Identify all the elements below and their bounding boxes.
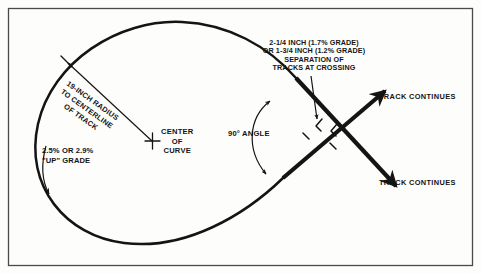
track-continues-lower-label: TRACK CONTINUES [379, 179, 456, 188]
crossing-angle-label: 90° ANGLE [228, 130, 270, 139]
separation-tick-left [303, 133, 309, 139]
separation-tick-right [330, 143, 336, 149]
center-of-curve-cross-icon [145, 133, 160, 149]
center-of-curve-label: CENTER OF CURVE [161, 127, 193, 156]
separation-callout-label: 2-1/4 INCH (1.7% GRADE) OR 1-3/4 INCH (1… [241, 39, 387, 73]
up-grade-label: 2.5% OR 2.9% "UP" GRADE [42, 146, 93, 166]
separation-bracket-upper [316, 119, 322, 131]
radius-endpoint-tick [61, 56, 72, 67]
diagram-figure: 2-1/4 INCH (1.7% GRADE) OR 1-3/4 INCH (1… [0, 0, 481, 274]
track-continues-upper-label: TRACK CONTINUES [379, 93, 456, 102]
